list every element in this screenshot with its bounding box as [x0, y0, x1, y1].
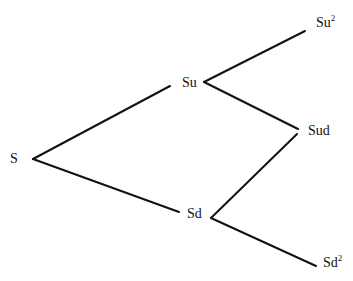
- edge-sd-sd2: [211, 218, 316, 266]
- edge-su-sud: [204, 82, 298, 129]
- node-sd: Sd: [187, 207, 202, 221]
- edge-s-sd: [33, 159, 179, 212]
- edge-su-su2: [204, 31, 305, 82]
- node-su: Su: [182, 76, 197, 90]
- edge-sd-sud: [211, 134, 297, 218]
- node-sud: Sud: [308, 124, 330, 138]
- node-s: S: [10, 152, 18, 166]
- node-sd-squared: Sd2: [323, 256, 342, 270]
- edge-s-su: [33, 86, 170, 159]
- node-su-squared: Su2: [316, 16, 335, 30]
- tree-edges: [0, 0, 353, 281]
